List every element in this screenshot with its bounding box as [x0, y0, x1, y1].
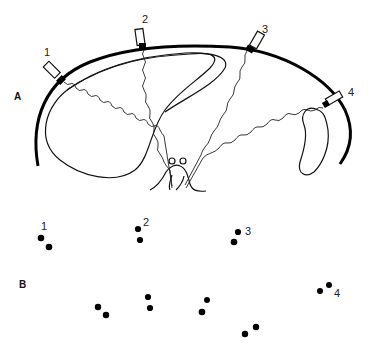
dot — [242, 331, 248, 337]
dot — [95, 304, 101, 310]
dot — [103, 312, 109, 318]
panel-b: B 1 2 3 4 — [19, 216, 340, 337]
dot — [199, 309, 206, 316]
outer-chest-wall-arc — [36, 46, 351, 166]
probe-4: 4 — [322, 86, 354, 108]
dot — [145, 294, 151, 300]
dot — [46, 244, 53, 251]
dot — [231, 239, 238, 246]
dot-group-4: 4 — [317, 282, 340, 299]
dot — [317, 288, 323, 294]
probe-2-label: 2 — [142, 13, 148, 25]
dot-pair-lower-1 — [95, 304, 109, 318]
panel-a: A 1 2 — [14, 13, 354, 191]
probe-3-label: 3 — [262, 23, 268, 35]
dot-group-1: 1 — [38, 220, 53, 250]
dot — [326, 282, 332, 288]
diagram-figure: A 1 2 — [0, 0, 370, 346]
ray-probe-2 — [143, 50, 173, 188]
dot — [235, 229, 241, 235]
panel-a-label: A — [14, 91, 21, 102]
panel-b-label: B — [19, 279, 26, 290]
dot-pair-lower-3 — [199, 297, 210, 315]
dot — [253, 324, 259, 330]
valve-leaflets — [150, 165, 206, 191]
valve-circle-right — [180, 158, 186, 164]
dot-group-3: 3 — [231, 225, 251, 245]
dot-pair-lower-2 — [145, 294, 153, 311]
right-small-loop — [299, 108, 328, 174]
dot — [137, 237, 143, 243]
probe-4-label: 4 — [348, 86, 354, 98]
probe-2: 2 — [135, 13, 148, 49]
dot-pair-lower-4 — [242, 324, 259, 337]
valve-structure — [150, 158, 206, 191]
dot — [204, 297, 210, 303]
dot-group-1-label: 1 — [41, 220, 47, 232]
dot-group-2-label: 2 — [143, 216, 149, 228]
dot-group-2: 2 — [135, 216, 149, 243]
ray-probe-3 — [185, 51, 247, 185]
probe-2-body — [135, 29, 145, 46]
probe-2-tip — [139, 43, 146, 49]
dot-group-3-label: 3 — [245, 225, 251, 237]
probe-3: 3 — [245, 23, 268, 54]
dot — [147, 305, 153, 311]
dot — [135, 226, 141, 232]
probe-1: 1 — [43, 46, 66, 85]
probe-1-label: 1 — [44, 46, 50, 58]
dot — [38, 235, 45, 242]
dot-group-4-label: 4 — [334, 287, 340, 299]
probe-1-body — [43, 61, 60, 78]
ray-probe-1 — [64, 82, 172, 186]
valve-circle-left — [169, 158, 175, 164]
